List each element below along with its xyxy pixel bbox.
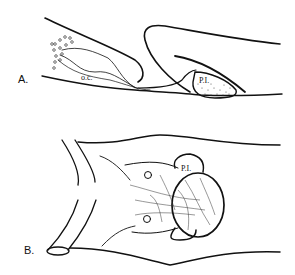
- panel-a-drawing: [42, 18, 282, 98]
- figure-drawing: [0, 0, 295, 275]
- annotation-pi-b: P.I.: [181, 164, 191, 173]
- annotation-pi-a: P.I.: [199, 76, 209, 85]
- panel-a-cell-dots: [51, 36, 74, 70]
- annotation-oc: o.c.: [81, 73, 93, 82]
- panel-label-b: B.: [24, 244, 34, 256]
- panel-label-a: A.: [18, 73, 28, 85]
- panel-b-drawing: [47, 135, 280, 265]
- panel-b-vessels: [130, 175, 215, 230]
- panel-a-stipple: [198, 84, 231, 96]
